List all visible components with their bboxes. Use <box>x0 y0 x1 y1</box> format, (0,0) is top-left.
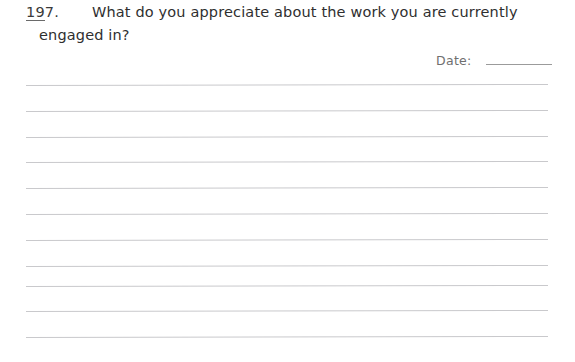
answer-line[interactable] <box>26 285 548 287</box>
answer-line[interactable] <box>26 187 548 189</box>
answer-line[interactable] <box>26 310 548 312</box>
answer-line[interactable] <box>26 213 548 215</box>
answer-line[interactable] <box>26 265 548 267</box>
answer-line[interactable] <box>26 110 548 112</box>
answer-lines-area <box>0 0 575 362</box>
answer-line[interactable] <box>26 239 548 241</box>
worksheet-page: 197. What do you appreciate about the wo… <box>0 0 575 362</box>
answer-line[interactable] <box>26 84 548 86</box>
answer-line[interactable] <box>26 161 548 163</box>
answer-line[interactable] <box>26 336 548 338</box>
answer-line[interactable] <box>26 136 548 138</box>
